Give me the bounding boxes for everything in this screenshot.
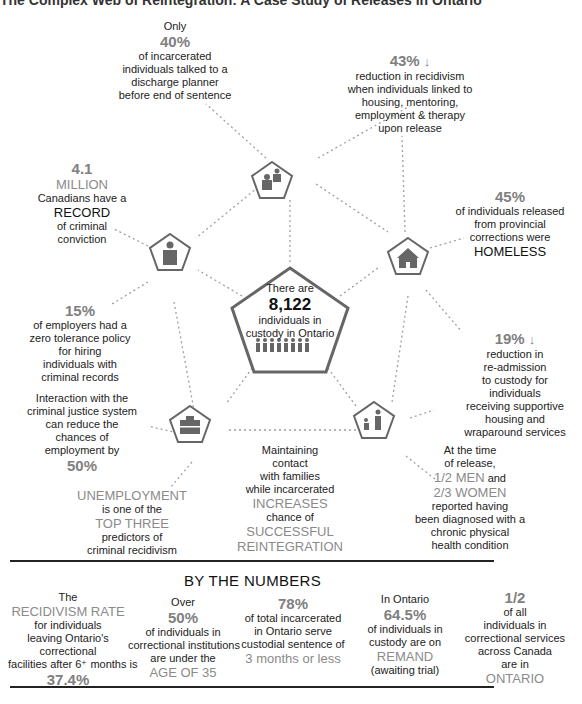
stat-short-sentence: 78% of total incarcerated in Ontario ser… <box>238 595 348 666</box>
divider-bottom <box>10 686 494 688</box>
divider-top <box>10 560 494 562</box>
fact-employers: 15% of employers had a zero tolerance po… <box>20 302 140 384</box>
fact-unemployment: UNEMPLOYMENT is one of the TOP THREE pre… <box>72 488 192 557</box>
fact-discharge-planner: Only 40% of incarcerated individuals tal… <box>105 20 245 102</box>
custody-count: 8,122 <box>240 295 340 314</box>
center-stat: There are 8,122 individuals in custody i… <box>240 282 340 340</box>
fact-health: At the time of release, 1/2 MEN and 2/3 … <box>405 444 535 552</box>
stat-ontario-share: 1/2 of all individuals in correctional s… <box>460 589 570 686</box>
down-arrow-icon: ↓ <box>529 332 536 347</box>
stat-remand: In Ontario 64.5% of individuals in custo… <box>355 593 455 677</box>
node-bottom-right <box>354 402 394 438</box>
fact-employment-chance: Interaction with the criminal justice sy… <box>22 392 142 474</box>
fact-readmission: 19% ↓ reduction in re-admission to custo… <box>455 330 575 439</box>
fact-housing-support: 43% ↓ reduction in recidivism when indiv… <box>340 52 480 135</box>
fact-criminal-record: 4.1 MILLION Canadians have a RECORD of c… <box>22 160 142 246</box>
fact-homeless: 45% of individuals released from provinc… <box>445 188 575 259</box>
stat-recidivism-rate: The RECIDIVISM RATE for individuals leav… <box>8 591 128 688</box>
stat-age: Over 50% of individuals in correctional … <box>128 596 238 680</box>
by-the-numbers-heading: BY THE NUMBERS <box>0 572 505 589</box>
fact-families: Maintaining contact with families while … <box>225 444 355 554</box>
down-arrow-icon: ↓ <box>424 54 431 69</box>
